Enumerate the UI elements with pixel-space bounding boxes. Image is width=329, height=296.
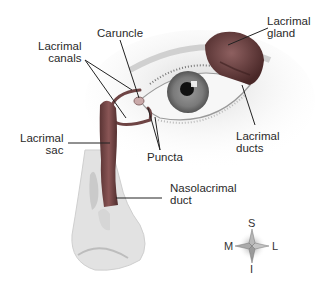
orientation-compass xyxy=(235,229,269,263)
label-lacrimal-sac: Lacrimal sac xyxy=(20,132,63,156)
label-puncta: Puncta xyxy=(147,151,183,163)
label-lacrimal-gland: Lacrimal gland xyxy=(267,15,310,39)
lacrimal-sac-duct xyxy=(100,101,118,207)
compass-inferior: I xyxy=(250,263,253,275)
label-lacrimal-ducts: Lacrimal ducts xyxy=(236,130,279,154)
compass-medial: M xyxy=(224,240,233,252)
label-nasolacrimal-duct: Nasolacrimal duct xyxy=(170,182,236,206)
label-lacrimal-canals: Lacrimal canals xyxy=(38,40,81,64)
label-caruncle: Caruncle xyxy=(97,27,143,39)
compass-superior: S xyxy=(248,217,255,229)
compass-lateral: L xyxy=(272,240,278,252)
caruncle xyxy=(134,97,144,105)
